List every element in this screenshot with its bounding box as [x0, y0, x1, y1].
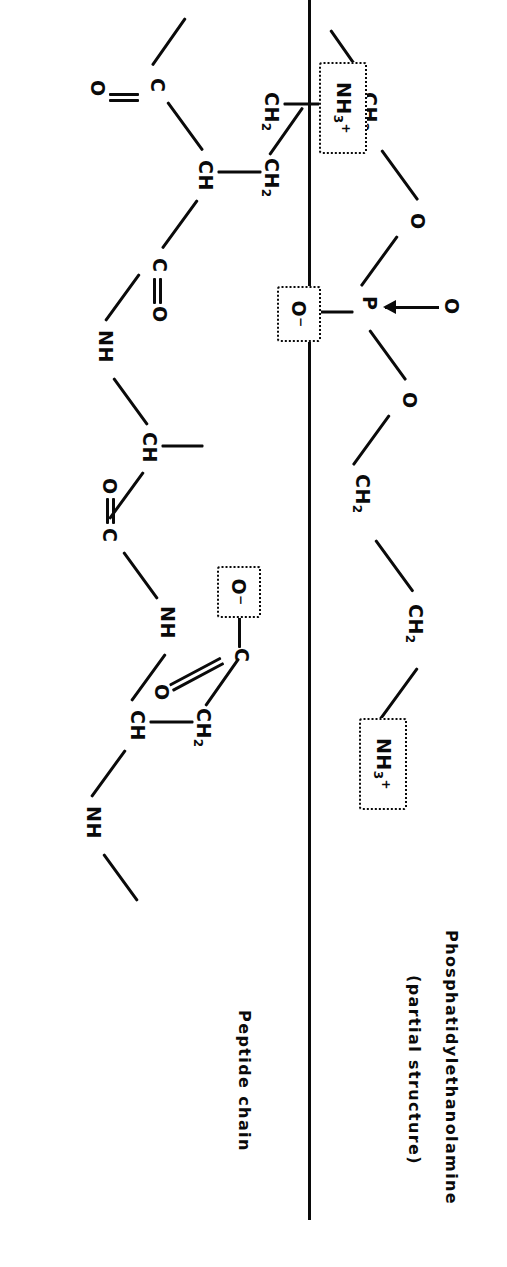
atom-text: NH	[374, 738, 396, 771]
bond-ch-open-terminus-peptide	[90, 749, 127, 798]
title-phosphatidylethanolamine: Phosphatidylethanolamine	[443, 930, 459, 1205]
atom-text: C	[149, 258, 171, 272]
panel-divider	[308, 0, 311, 1220]
atom-text: O	[99, 478, 121, 495]
double-bond-line-b	[169, 657, 222, 687]
atom-text: O	[441, 298, 463, 315]
atom-label-c-carboxylate: C	[232, 648, 251, 662]
atom-charge: +	[380, 780, 394, 791]
atom-text: CH	[261, 92, 283, 123]
bond-c-nh-peptide-2	[122, 551, 159, 600]
atom-label-ch-peptide-2: CH	[140, 432, 159, 463]
atom-label-ch2-pe-2: CH2	[351, 474, 372, 514]
bond-ch2-ch2-pe	[374, 539, 414, 593]
double-bond-c-o-carboxylate	[172, 662, 223, 689]
atom-subscript: 3	[372, 771, 386, 780]
atom-label-o-carboxylate-double: O	[152, 684, 171, 701]
atom-label-c-peptide-2: C	[150, 258, 169, 272]
atom-label-o-pe-double: O	[442, 298, 461, 315]
atom-label-o-peptide-1: O	[88, 80, 107, 97]
atom-text: CH	[352, 474, 374, 505]
highlight-box-nh3-peptide: NH3+	[319, 62, 367, 154]
arrow-head-icon	[383, 300, 396, 314]
atom-label-o-pe-2: O	[400, 392, 419, 409]
highlight-box-ominus-peptide: O−	[217, 566, 261, 618]
atom-text: CH	[127, 710, 149, 741]
atom-subscript: 2	[350, 505, 364, 514]
atom-label-p-pe: P	[360, 296, 379, 310]
atom-text: CH	[405, 604, 427, 635]
highlight-box-ominus-pe: O−	[277, 286, 321, 342]
atom-text: C	[147, 78, 169, 92]
atom-subscript: 2	[403, 635, 417, 644]
atom-label-nh3-pe: NH3+	[373, 738, 394, 790]
bond-ch2-nh3-pe	[379, 667, 419, 721]
double-bond-line-a	[106, 498, 109, 524]
atom-label-o-peptide-3: O	[100, 478, 119, 495]
atom-text: O	[229, 578, 251, 595]
atom-label-ch2-pe-3: CH2	[404, 604, 425, 644]
atom-text: CH	[195, 160, 217, 191]
figure-page: Phosphatidylethanolamine (partial struct…	[0, 0, 507, 1267]
bond-ch-c-peptide-1	[161, 199, 199, 249]
atom-subscript: 3	[332, 115, 346, 124]
atom-text: O	[399, 392, 421, 409]
bond-open-terminus-peptide-right	[102, 853, 139, 902]
atom-label-nh3-peptide: NH3+	[333, 82, 354, 134]
atom-text: O	[87, 80, 109, 97]
double-bond-line-b	[112, 498, 115, 524]
bond-c-nh-peptide-1	[104, 273, 141, 322]
bond-open-terminus-peptide-left	[151, 17, 187, 66]
bond-o-ch2-pe	[352, 414, 391, 466]
atom-charge: −	[235, 595, 249, 606]
atom-text: C	[231, 648, 253, 662]
atom-label-ch2-peptide-3: CH2	[192, 708, 213, 748]
bond-p-o-pe-2	[368, 329, 407, 381]
atom-label-ch2-peptide-1: CH2	[260, 158, 281, 198]
bond-ch-ch2-peptide-3	[150, 721, 194, 724]
bond-nh-ch-peptide-1	[112, 377, 149, 426]
title-phosphatidylethanolamine-subtitle: (partial structure)	[406, 975, 422, 1165]
atom-charge: +	[340, 124, 354, 135]
atom-text: NH	[83, 806, 105, 839]
double-bond-line-a	[109, 99, 139, 102]
atom-label-ch-peptide-1: CH	[196, 160, 215, 191]
atom-label-nh-peptide-1: NH	[96, 330, 115, 363]
atom-text: NH	[95, 330, 117, 363]
bond-ch-sidechain-peptide-2	[162, 445, 204, 448]
atom-label-o-peptide-2: O	[150, 306, 169, 323]
chemical-diagram: Phosphatidylethanolamine (partial struct…	[0, 0, 507, 1267]
atom-label-o-pe-1: O	[408, 213, 427, 230]
atom-text: NH	[157, 606, 179, 639]
atom-text: O	[289, 300, 311, 317]
atom-label-ominus-pe: O−	[290, 300, 309, 327]
atom-text: P	[359, 296, 381, 310]
atom-subscript: 2	[191, 739, 205, 748]
bond-ch2-o-pe	[380, 149, 419, 201]
atom-text: O	[151, 684, 173, 701]
atom-subscript: 2	[259, 123, 273, 132]
atom-label-nh-peptide-2: NH	[158, 606, 177, 639]
bond-p-ominus-pe	[320, 311, 354, 314]
atom-label-c-peptide-3: C	[100, 528, 119, 542]
atom-label-ch-peptide-3: CH	[128, 710, 147, 741]
double-bond-line-b	[109, 93, 139, 96]
atom-text: CH	[261, 158, 283, 189]
atom-label-nh-peptide-3: NH	[84, 806, 103, 839]
title-peptide-chain: Peptide chain	[236, 1010, 252, 1152]
bond-ch2-nh3-peptide	[284, 103, 324, 106]
atom-text: CH	[193, 708, 215, 739]
atom-text: NH	[334, 82, 356, 115]
highlight-box-nh3-pe: NH3+	[359, 718, 407, 810]
double-bond-line-a	[159, 278, 162, 304]
atom-text: O	[407, 213, 429, 230]
atom-text: C	[99, 528, 121, 542]
atom-text: O	[149, 306, 171, 323]
atom-label-ch2-peptide-2: CH2	[260, 92, 281, 132]
atom-subscript: 2	[259, 189, 273, 198]
bond-ch-ch2-peptide-1	[218, 171, 262, 174]
atom-label-ominus-peptide: O−	[230, 578, 249, 605]
atom-charge: −	[295, 317, 309, 328]
atom-text: CH	[139, 432, 161, 463]
bond-c-ch-peptide-1	[166, 101, 204, 151]
